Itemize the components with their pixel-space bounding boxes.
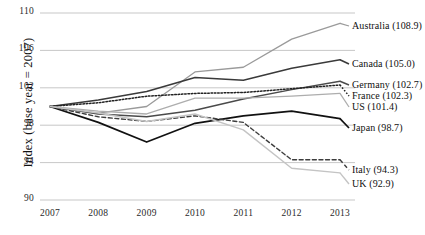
series-label-germany: Germany (102.7) bbox=[352, 79, 422, 90]
x-tick-label: 2008 bbox=[78, 208, 118, 218]
leader-line-us bbox=[340, 93, 349, 107]
y-tick-label: 94 bbox=[10, 156, 34, 166]
leader-line-germany bbox=[340, 81, 349, 85]
leader-line-italy bbox=[340, 160, 349, 170]
x-tick-label: 2010 bbox=[175, 208, 215, 218]
leader-line-australia bbox=[340, 23, 349, 26]
x-tick-label: 2013 bbox=[320, 208, 360, 218]
x-tick-label: 2012 bbox=[272, 208, 312, 218]
y-tick-label: 102 bbox=[10, 81, 34, 91]
series-lines bbox=[50, 23, 340, 173]
series-line-australia bbox=[50, 23, 340, 113]
series-label-japan: Japan (98.7) bbox=[352, 122, 403, 133]
y-tick-label: 90 bbox=[10, 193, 34, 203]
y-tick-label: 106 bbox=[10, 43, 34, 53]
chart-canvas bbox=[0, 0, 425, 235]
x-tick-label: 2007 bbox=[30, 208, 70, 218]
leader-line-canada bbox=[340, 60, 349, 64]
x-tick-label: 2011 bbox=[223, 208, 263, 218]
leader-line-uk bbox=[340, 173, 349, 184]
line-chart: Index (base year = 2007) 110106102989490… bbox=[0, 0, 425, 235]
gridlines bbox=[40, 13, 355, 200]
y-tick-label: 110 bbox=[10, 6, 34, 16]
x-tick-label: 2009 bbox=[127, 208, 167, 218]
y-tick-label: 98 bbox=[10, 118, 34, 128]
series-label-australia: Australia (108.9) bbox=[352, 20, 422, 31]
series-line-canada bbox=[50, 60, 340, 107]
series-label-uk: UK (92.9) bbox=[352, 178, 394, 189]
series-label-us: US (101.4) bbox=[352, 101, 397, 112]
series-label-france: France (102.3) bbox=[352, 90, 412, 101]
leader-lines bbox=[340, 23, 349, 184]
series-label-italy: Italy (94.3) bbox=[352, 164, 398, 175]
leader-line-japan bbox=[340, 119, 349, 128]
series-label-canada: Canada (105.0) bbox=[352, 58, 415, 69]
